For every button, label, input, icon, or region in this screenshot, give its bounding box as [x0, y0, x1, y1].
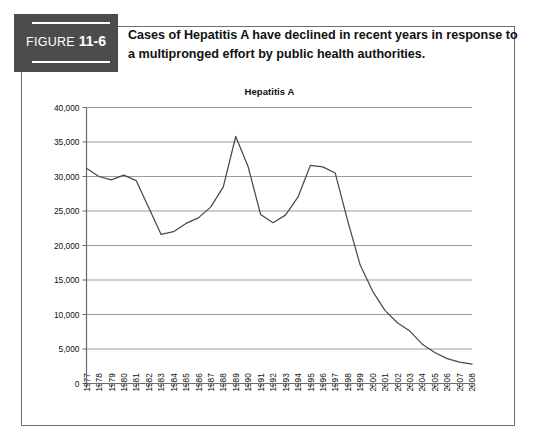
figure-badge-number: 11-6: [79, 33, 106, 49]
figure-caption-line-2: a multipronged effort by public health a…: [128, 45, 513, 64]
figure-caption-line-1: Cases of Hepatitis A have declined in re…: [128, 26, 513, 45]
figure-badge: FIGURE 11-6: [14, 14, 118, 72]
figure-badge-text: FIGURE 11-6: [14, 33, 118, 49]
figure-caption: Cases of Hepatitis A have declined in re…: [128, 26, 513, 64]
chart-title: Hepatitis A: [0, 86, 539, 97]
figure-page: FIGURE 11-6 Cases of Hepatitis A have de…: [0, 0, 539, 440]
badge-rule-top: [32, 22, 110, 24]
badge-rule-bottom: [32, 61, 110, 63]
figure-badge-word: FIGURE: [26, 35, 75, 49]
